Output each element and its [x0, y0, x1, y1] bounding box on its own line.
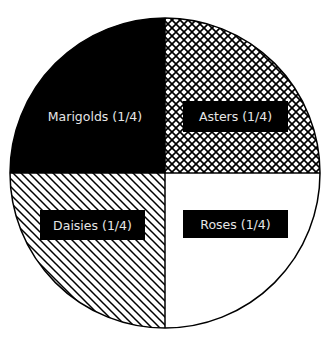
label-roses: Roses (1/4) [183, 210, 288, 238]
svg-text:Daisies (1/4): Daisies (1/4) [53, 218, 132, 233]
slice-marigolds [5, 10, 165, 173]
svg-text:Asters (1/4): Asters (1/4) [199, 109, 272, 124]
svg-text:Marigolds (1/4): Marigolds (1/4) [48, 109, 142, 124]
slice-asters [165, 10, 325, 173]
svg-text:Roses (1/4): Roses (1/4) [200, 217, 270, 232]
slice-roses [165, 173, 325, 338]
label-daisies: Daisies (1/4) [40, 210, 145, 240]
slice-daisies [5, 173, 165, 338]
label-marigolds: Marigolds (1/4) [30, 100, 160, 132]
label-asters: Asters (1/4) [183, 101, 288, 132]
pie-chart: Marigolds (1/4) Asters (1/4) Daisies (1/… [0, 0, 330, 345]
